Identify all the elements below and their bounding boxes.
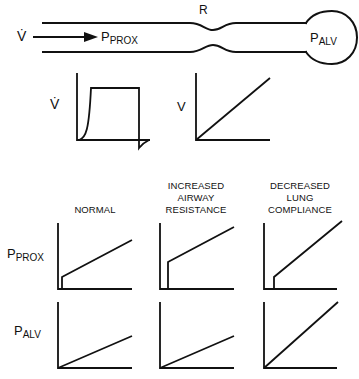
- column-header-decreased-compliance: DECREASED LUNG COMPLIANCE: [245, 180, 355, 216]
- header-line: DECREASED: [245, 180, 355, 192]
- flow-label: V̇: [17, 30, 26, 43]
- alveolar-pressure-sub: ALV: [319, 36, 337, 47]
- column-header-normal: NORMAL: [40, 204, 150, 216]
- arrowhead-icon: [84, 32, 98, 42]
- header-line: LUNG: [245, 192, 355, 204]
- row-label-sub: PROX: [16, 252, 44, 263]
- row-label-sub: ALV: [23, 329, 41, 340]
- airway-tube-bottom: [43, 45, 306, 52]
- resistance-label: R: [199, 4, 208, 17]
- airway-tube: [43, 23, 306, 30]
- volume-waveform: [196, 78, 270, 140]
- row-label-main: P: [14, 323, 23, 338]
- pprox-compliance-curve: [274, 221, 342, 289]
- alveolar-pressure-main: P: [310, 30, 319, 45]
- header-line: NORMAL: [40, 204, 150, 216]
- palv-compliance-curve: [264, 302, 338, 368]
- alveolar-pressure-label: PALV: [310, 31, 337, 45]
- flow-chart-label: V̇: [50, 98, 59, 111]
- pprox-resistance-curve: [168, 227, 234, 289]
- proximal-pressure-sub: PROX: [110, 35, 138, 46]
- column-header-increased-resistance: INCREASED AIRWAY RESISTANCE: [141, 180, 251, 216]
- flow-waveform: [79, 88, 149, 148]
- proximal-pressure-main: P: [101, 29, 110, 44]
- row-label-main: P: [7, 246, 16, 261]
- proximal-pressure-label: PPROX: [101, 30, 138, 44]
- palv-resistance-axes: [160, 302, 234, 368]
- header-line: COMPLIANCE: [245, 204, 355, 216]
- pprox-normal-axes: [58, 223, 132, 289]
- palv-resistance-curve: [160, 336, 234, 368]
- pprox-normal-curve: [62, 240, 132, 289]
- palv-normal-axes: [58, 302, 132, 368]
- volume-chart-label: V: [177, 100, 186, 113]
- palv-normal-curve: [58, 336, 132, 368]
- row-label-palv: PALV: [14, 324, 41, 338]
- header-line: RESISTANCE: [141, 204, 251, 216]
- row-label-pprox: PPROX: [7, 247, 44, 261]
- header-line: AIRWAY: [141, 192, 251, 204]
- header-line: INCREASED: [141, 180, 251, 192]
